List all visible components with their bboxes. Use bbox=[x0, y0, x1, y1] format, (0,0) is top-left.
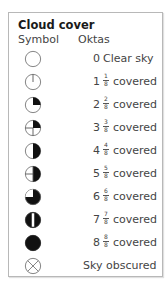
okta-fraction: 28 bbox=[103, 96, 109, 110]
five-okta-icon bbox=[24, 165, 42, 183]
okta-label: covered bbox=[113, 236, 157, 249]
okta-number: 4 bbox=[90, 144, 100, 157]
okta-fraction: 68 bbox=[103, 188, 109, 202]
legend-row-7: 7 78 covered bbox=[9, 209, 162, 231]
okta-number: 8 bbox=[90, 236, 100, 249]
okta-fraction: 78 bbox=[103, 211, 109, 225]
legend-row-4: 4 48 covered bbox=[9, 140, 162, 162]
seven-okta-icon bbox=[24, 211, 42, 229]
legend-row-0: 0 Clear sky bbox=[9, 48, 162, 70]
oktas-column-header: Oktas bbox=[78, 33, 110, 46]
okta-number: 6 bbox=[90, 190, 100, 203]
okta-label: covered bbox=[113, 167, 157, 180]
one-okta-icon bbox=[24, 73, 42, 91]
okta-label: covered bbox=[113, 144, 157, 157]
okta-label: Sky obscured bbox=[83, 259, 156, 272]
two-okta-icon bbox=[24, 96, 42, 114]
okta-label: Clear sky bbox=[103, 52, 153, 65]
sky-obscured-icon bbox=[24, 257, 42, 275]
legend-row-3: 3 38 covered bbox=[9, 117, 162, 139]
symbol-column-header: Symbol bbox=[18, 33, 59, 46]
cloud-cover-legend: Cloud cover Symbol Oktas 0 Clear sky 1 1… bbox=[8, 12, 163, 277]
okta-number: 2 bbox=[90, 98, 100, 111]
okta-fraction: 38 bbox=[103, 119, 109, 133]
legend-row-obscured: Sky obscured bbox=[9, 255, 162, 277]
legend-row-1: 1 18 covered bbox=[9, 71, 162, 93]
okta-number: 0 bbox=[90, 52, 100, 65]
okta-fraction: 18 bbox=[103, 73, 109, 87]
okta-label: covered bbox=[113, 75, 157, 88]
okta-fraction: 48 bbox=[103, 142, 109, 156]
four-okta-icon bbox=[24, 142, 42, 160]
okta-number: 1 bbox=[90, 75, 100, 88]
six-okta-icon bbox=[24, 188, 42, 206]
legend-row-6: 6 68 covered bbox=[9, 186, 162, 208]
legend-row-5: 5 58 covered bbox=[9, 163, 162, 185]
legend-row-2: 2 28 covered bbox=[9, 94, 162, 116]
okta-number: 7 bbox=[90, 213, 100, 226]
okta-number: 3 bbox=[90, 121, 100, 134]
okta-label: covered bbox=[113, 98, 157, 111]
three-okta-icon bbox=[24, 119, 42, 137]
eight-okta-icon bbox=[24, 234, 42, 252]
clear-sky-circle-icon bbox=[24, 50, 42, 68]
okta-label: covered bbox=[113, 190, 157, 203]
okta-label: covered bbox=[113, 121, 157, 134]
legend-title: Cloud cover bbox=[18, 18, 94, 32]
legend-row-8: 8 88 covered bbox=[9, 232, 162, 254]
okta-label: covered bbox=[113, 213, 157, 226]
okta-fraction: 88 bbox=[103, 234, 109, 248]
okta-number: 5 bbox=[90, 167, 100, 180]
okta-fraction: 58 bbox=[103, 165, 109, 179]
